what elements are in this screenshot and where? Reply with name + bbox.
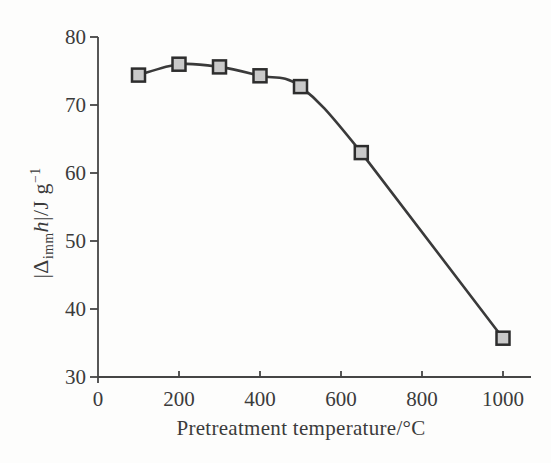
plot-area: 02004006008001000304050607080 bbox=[0, 0, 551, 463]
x-tick-label: 0 bbox=[93, 387, 104, 411]
data-point-marker bbox=[173, 58, 186, 71]
y-axis-label-exponent: −1 bbox=[28, 167, 43, 183]
y-tick-label: 40 bbox=[65, 297, 86, 321]
y-axis-label-open: |Δ bbox=[28, 259, 53, 279]
y-tick-label: 50 bbox=[65, 229, 86, 253]
data-point-marker bbox=[213, 60, 226, 73]
data-point-marker bbox=[294, 80, 307, 93]
data-point-marker bbox=[497, 332, 510, 345]
y-axis-label-units: |/J g bbox=[28, 183, 53, 221]
y-axis-label-subscript: imm bbox=[41, 233, 56, 259]
y-tick-label: 60 bbox=[65, 161, 86, 185]
x-tick-label: 400 bbox=[244, 387, 276, 411]
y-tick-label: 30 bbox=[65, 365, 86, 389]
chart-figure: 02004006008001000304050607080 Pretreatme… bbox=[0, 0, 551, 463]
y-tick-label: 70 bbox=[65, 93, 86, 117]
x-tick-label: 1000 bbox=[482, 387, 524, 411]
y-axis-label-variable: h bbox=[28, 221, 53, 233]
data-point-marker bbox=[254, 69, 267, 82]
x-tick-label: 200 bbox=[163, 387, 195, 411]
y-axis-label: |Δimmh|/J g−1 bbox=[28, 167, 54, 278]
x-tick-label: 800 bbox=[406, 387, 438, 411]
data-point-marker bbox=[355, 146, 368, 159]
data-line bbox=[139, 64, 504, 338]
x-tick-label: 600 bbox=[325, 387, 357, 411]
x-axis-label: Pretreatment temperature/°C bbox=[98, 416, 504, 441]
y-tick-label: 80 bbox=[65, 25, 86, 49]
data-point-marker bbox=[132, 69, 145, 82]
